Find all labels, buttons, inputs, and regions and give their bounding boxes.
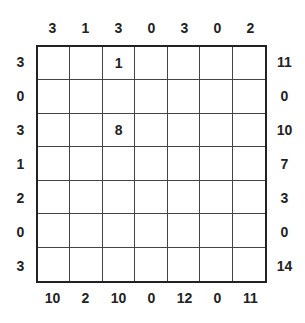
- left-clue: 3: [4, 256, 37, 276]
- bottom-clue: 11: [234, 288, 267, 308]
- right-clue: 10: [268, 120, 301, 140]
- grid-cell[interactable]: [38, 80, 70, 113]
- grid-cell[interactable]: [38, 214, 70, 247]
- grid-cell[interactable]: [103, 80, 135, 113]
- grid-cell[interactable]: [200, 248, 232, 281]
- right-clue: 0: [268, 86, 301, 106]
- grid-cell[interactable]: [70, 147, 102, 180]
- grid-cell[interactable]: [168, 147, 200, 180]
- grid-cell[interactable]: [233, 47, 265, 80]
- right-clue: 3: [268, 188, 301, 208]
- right-clue: 0: [268, 222, 301, 242]
- bottom-clue: 2: [69, 288, 102, 308]
- grid-cell[interactable]: [70, 114, 102, 147]
- bottom-clue: 10: [36, 288, 69, 308]
- left-clue: 0: [4, 222, 37, 242]
- left-clue: 3: [4, 120, 37, 140]
- grid-cell[interactable]: [233, 214, 265, 247]
- grid-cell[interactable]: [233, 114, 265, 147]
- left-clue: 0: [4, 86, 37, 106]
- bottom-clue: 10: [102, 288, 135, 308]
- grid-cell[interactable]: [168, 181, 200, 214]
- grid-cell[interactable]: [70, 214, 102, 247]
- grid-cell[interactable]: [233, 248, 265, 281]
- top-clue: 3: [36, 18, 69, 38]
- grid-cell[interactable]: [38, 147, 70, 180]
- grid-cell[interactable]: [233, 147, 265, 180]
- bottom-clue: 0: [135, 288, 168, 308]
- grid-cell[interactable]: [200, 181, 232, 214]
- grid-cell[interactable]: [135, 114, 167, 147]
- top-clue: 1: [69, 18, 102, 38]
- grid-cell[interactable]: 8: [103, 114, 135, 147]
- grid-cell[interactable]: [200, 114, 232, 147]
- top-clue: 3: [168, 18, 201, 38]
- puzzle-board: 3130302 10210012011 3031203 1101073014 1…: [0, 0, 305, 323]
- grid-cell[interactable]: [135, 47, 167, 80]
- right-clue: 7: [268, 154, 301, 174]
- right-clue: 11: [268, 52, 301, 72]
- grid-cell[interactable]: [200, 80, 232, 113]
- left-clue: 1: [4, 154, 37, 174]
- grid-cell[interactable]: [135, 147, 167, 180]
- grid-cell[interactable]: 1: [103, 47, 135, 80]
- grid-cell[interactable]: [168, 214, 200, 247]
- grid-cell[interactable]: [70, 47, 102, 80]
- grid-cell[interactable]: [200, 214, 232, 247]
- grid-cell[interactable]: [135, 248, 167, 281]
- grid-cell[interactable]: [38, 114, 70, 147]
- right-clue: 14: [268, 256, 301, 276]
- left-clue: 2: [4, 188, 37, 208]
- top-clue: 3: [102, 18, 135, 38]
- grid-cell[interactable]: [200, 47, 232, 80]
- grid-cell[interactable]: [233, 181, 265, 214]
- bottom-clue: 0: [201, 288, 234, 308]
- top-clue: 0: [201, 18, 234, 38]
- left-clue: 3: [4, 52, 37, 72]
- grid-cell[interactable]: [168, 248, 200, 281]
- grid-cell[interactable]: [135, 80, 167, 113]
- grid-cell[interactable]: [103, 214, 135, 247]
- grid-cell[interactable]: [135, 181, 167, 214]
- puzzle-grid: 18: [36, 45, 267, 283]
- grid-cell[interactable]: [38, 248, 70, 281]
- grid-cell[interactable]: [70, 80, 102, 113]
- top-clue: 0: [135, 18, 168, 38]
- grid-cell[interactable]: [135, 214, 167, 247]
- grid-cell[interactable]: [70, 181, 102, 214]
- top-clue: 2: [234, 18, 267, 38]
- bottom-clue: 12: [168, 288, 201, 308]
- grid-cell[interactable]: [168, 47, 200, 80]
- grid-cell[interactable]: [200, 147, 232, 180]
- grid-cell[interactable]: [103, 248, 135, 281]
- grid-cell[interactable]: [233, 80, 265, 113]
- grid-cell[interactable]: [103, 147, 135, 180]
- grid-cell[interactable]: [38, 181, 70, 214]
- grid-cell[interactable]: [168, 80, 200, 113]
- grid-cell[interactable]: [168, 114, 200, 147]
- grid-cell[interactable]: [38, 47, 70, 80]
- grid-cell[interactable]: [70, 248, 102, 281]
- grid-cell[interactable]: [103, 181, 135, 214]
